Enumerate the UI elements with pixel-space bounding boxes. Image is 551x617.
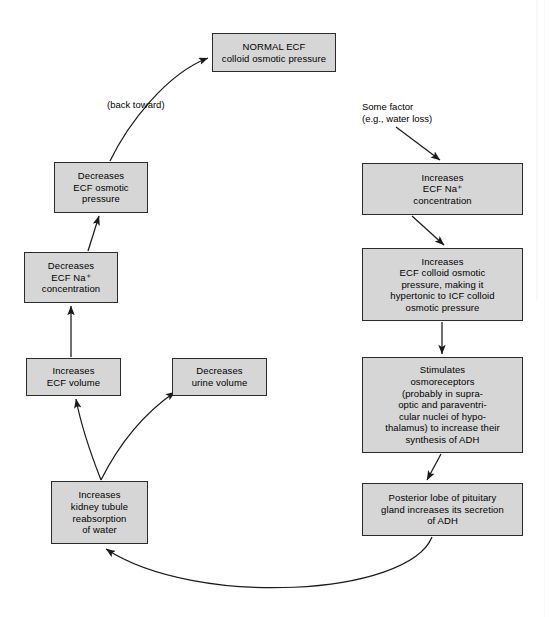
edge-kidney-to-ecf-volume [76, 399, 101, 480]
node-increases-ecf-volume: Increases ECF volume [26, 358, 121, 396]
node-stimulates-osmoreceptors: Stimulates osmoreceptors (probably in su… [362, 357, 523, 453]
edge-osmoreceptors-to-pituitary [427, 454, 441, 480]
caption-some-factor: Some factor (e.g., water loss) [362, 101, 432, 125]
node-posterior-pituitary-adh-secretion: Posterior lobe of pituitary gland increa… [362, 483, 523, 536]
edge-kidney-to-urine-volume [101, 392, 175, 480]
scan-artifact [544, 0, 545, 617]
node-decreases-ecf-osmotic-pressure: Decreases ECF osmotic pressure [54, 162, 148, 213]
edge-increases-ecf-na-to-colloid [412, 216, 444, 245]
caption-back-toward: (back toward) [107, 99, 165, 111]
scan-artifact [536, 0, 538, 300]
node-increases-kidney-tubule-reabsorption: Increases kidney tubule reabsorption of … [51, 481, 148, 544]
node-normal-ecf: NORMAL ECF colloid osmotic pressure [212, 33, 336, 72]
edge-pituitary-to-kidney [106, 537, 432, 588]
node-increases-ecf-na-concentration: Increases ECF Na⁺ concentration [362, 163, 523, 215]
edge-decreases-na-to-decreases-osmotic [88, 216, 99, 251]
node-increases-ecf-colloid-osmotic-pressure: Increases ECF colloid osmotic pressure, … [362, 248, 523, 321]
adh-feedback-flowchart: NORMAL ECF colloid osmotic pressure Decr… [0, 0, 551, 617]
node-decreases-urine-volume: Decreases urine volume [172, 358, 267, 396]
node-decreases-ecf-na-concentration: Decreases ECF Na⁺ concentration [24, 252, 118, 303]
edge-some-factor-to-increases-ecf-na [396, 127, 440, 160]
